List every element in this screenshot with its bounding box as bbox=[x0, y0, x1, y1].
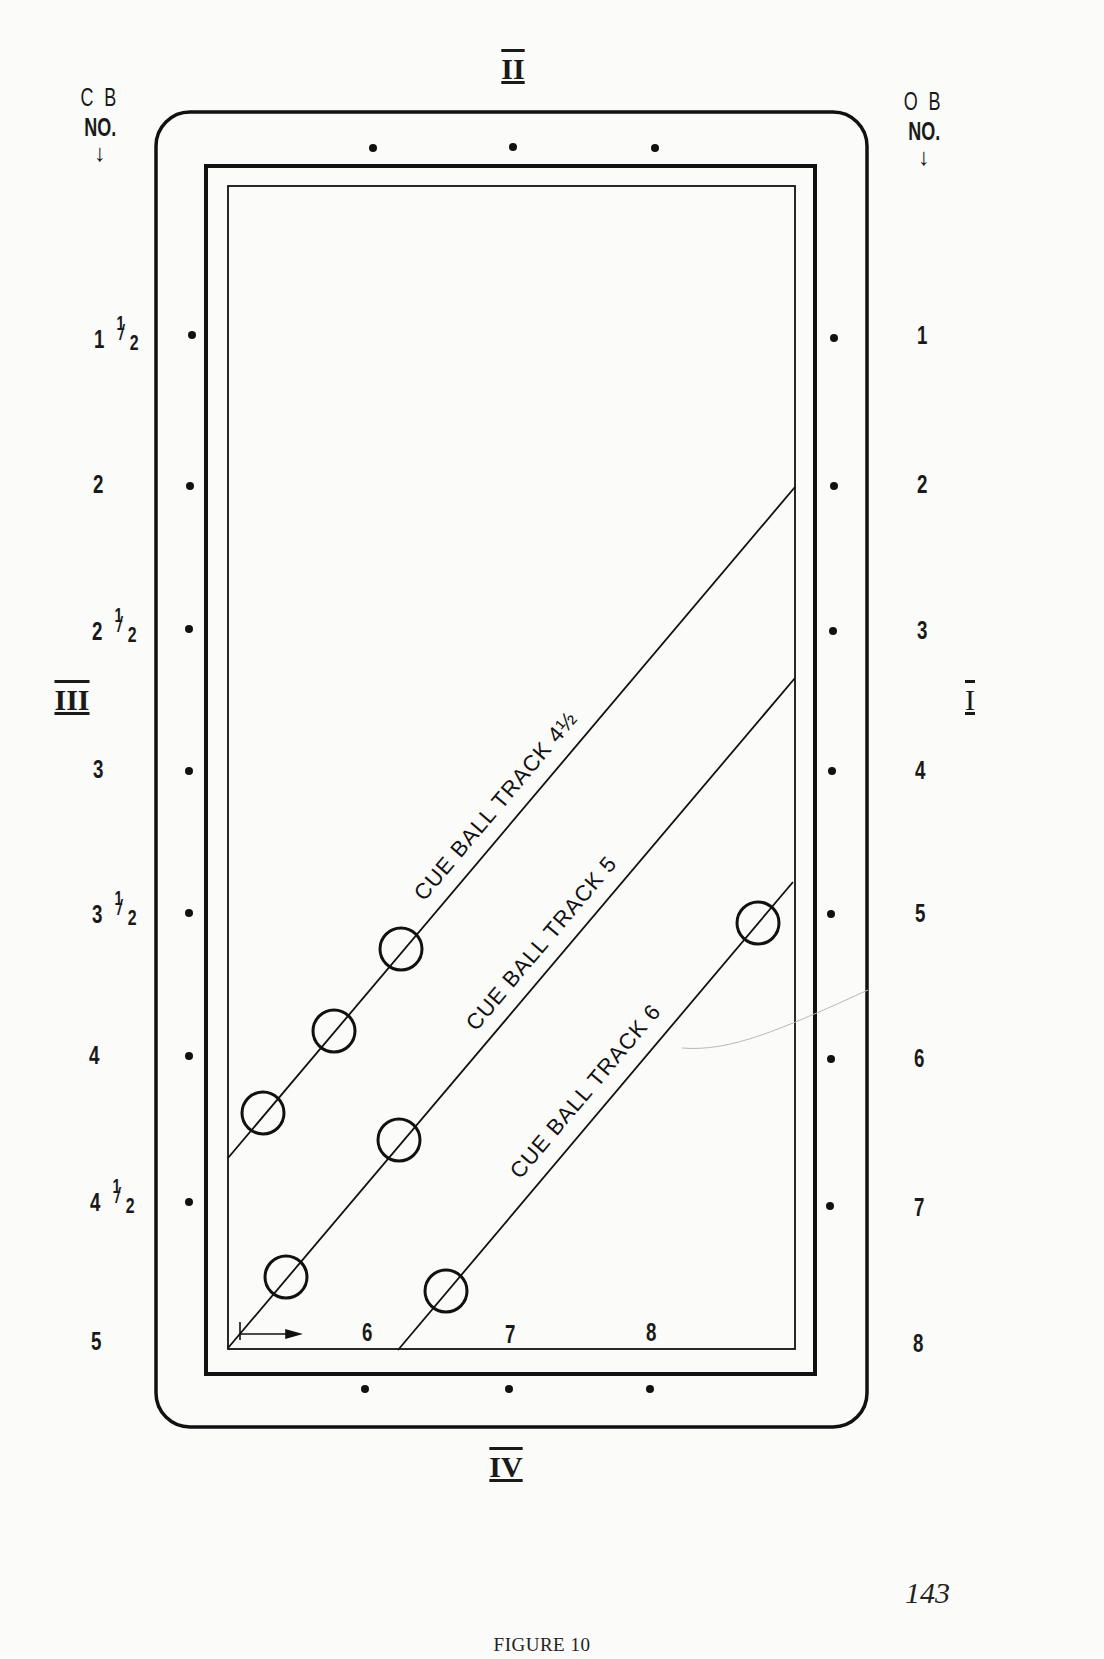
track-label-4-5: CUE BALL TRACK 4½ bbox=[409, 706, 583, 905]
page-number: 143 bbox=[905, 1576, 950, 1610]
cb-number-4: 4 bbox=[64, 1040, 124, 1071]
bottom-number-6: 6 bbox=[337, 1317, 397, 1348]
bottom-number-8: 8 bbox=[621, 1317, 681, 1348]
ball-marker bbox=[313, 1010, 355, 1052]
diamonds-top bbox=[369, 143, 659, 152]
ball-marker bbox=[265, 1256, 307, 1298]
ob-number: 7 bbox=[889, 1192, 949, 1223]
ob-number: 6 bbox=[889, 1043, 949, 1074]
ball-marker bbox=[242, 1092, 284, 1134]
ob-number: 1 bbox=[892, 320, 952, 351]
cue-ball-track-4-5-line bbox=[228, 487, 795, 1158]
pencil-mark bbox=[682, 990, 868, 1048]
billiard-table-diagram: CUE BALL TRACK 4½ CUE BALL TRACK 5 CUE B… bbox=[0, 0, 1104, 1659]
ob-number: 4 bbox=[890, 755, 950, 786]
diamonds-bottom bbox=[361, 1385, 654, 1393]
ob-number: 5 bbox=[890, 898, 950, 929]
ball-marker bbox=[425, 1270, 467, 1312]
ob-number: 3 bbox=[892, 615, 952, 646]
track-label-5: CUE BALL TRACK 5 bbox=[461, 851, 622, 1035]
bottom-number-7: 7 bbox=[480, 1319, 540, 1350]
cue-ball-track-6-line bbox=[398, 882, 793, 1350]
ball-marker bbox=[378, 1119, 420, 1161]
track-label-6: CUE BALL TRACK 6 bbox=[505, 999, 666, 1183]
diamonds-right bbox=[826, 334, 838, 1210]
diamonds-left bbox=[185, 331, 196, 1206]
figure-caption: FIGURE 10 bbox=[432, 1634, 652, 1656]
cb-number-2: 2 bbox=[68, 469, 128, 500]
ob-number: 8 bbox=[888, 1328, 948, 1359]
cb-number-3: 3 bbox=[68, 754, 128, 785]
corner-direction-arrow-icon bbox=[240, 1322, 300, 1340]
ob-number: 2 bbox=[892, 469, 952, 500]
cb-number-5: 5 bbox=[66, 1326, 126, 1357]
ball-marker bbox=[380, 928, 422, 970]
